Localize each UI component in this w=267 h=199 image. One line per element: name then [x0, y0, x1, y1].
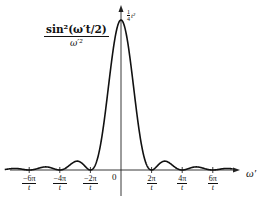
peak-coef-num: 1	[127, 9, 130, 16]
y-axis-label: sin²(ω′t/2) ω′²	[44, 23, 109, 49]
x-tick-label: 2πt	[143, 175, 161, 192]
y-label-numerator: sin²(ω′t/2)	[44, 23, 109, 37]
x-tick-denominator: t	[59, 184, 61, 192]
x-tick-label: −2πt	[81, 175, 99, 192]
x-tick-denominator: t	[89, 184, 91, 192]
x-tick-label: −4πt	[51, 175, 69, 192]
y-axis-arrow-icon	[119, 5, 124, 12]
peak-variable: t²	[131, 12, 135, 20]
x-axis-label: ω′	[246, 167, 256, 179]
x-tick-label: 4πt	[173, 175, 191, 192]
x-tick-label: 6πt	[204, 175, 222, 192]
peak-value-label: 1 4 t²	[127, 9, 135, 22]
x-tick-denominator: t	[181, 184, 183, 192]
plot-area	[0, 0, 267, 199]
y-label-denominator: ω′²	[70, 37, 83, 49]
x-tick-denominator: t	[150, 184, 152, 192]
peak-coef-den: 4	[127, 16, 130, 22]
x-tick-denominator: t	[28, 184, 30, 192]
x-axis-arrow-icon	[233, 168, 240, 173]
origin-label: 0	[112, 172, 117, 182]
x-tick-label: −6πt	[20, 175, 38, 192]
x-tick-denominator: t	[212, 184, 214, 192]
sinc-squared-curve	[5, 20, 233, 170]
